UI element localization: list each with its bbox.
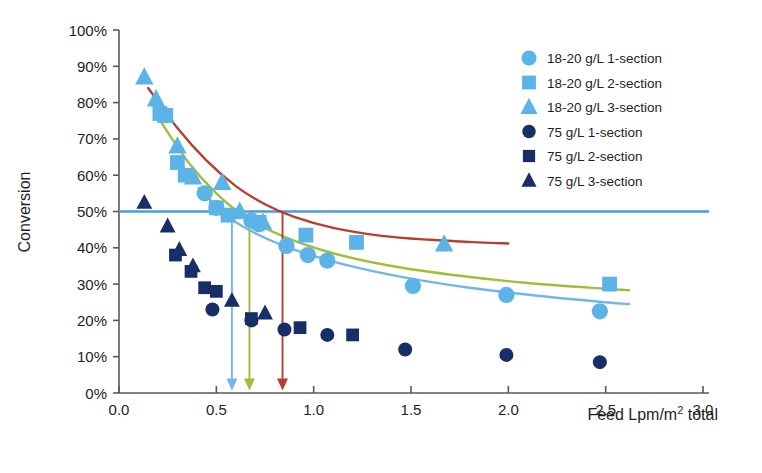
y-tick-label: 80% (77, 94, 107, 111)
data-point (602, 277, 617, 292)
legend-label: 75 g/L 1-section (547, 125, 643, 140)
data-point (346, 329, 359, 342)
data-point (135, 67, 153, 84)
legend-marker-square (522, 76, 536, 90)
x-tick-label: 2.0 (498, 401, 519, 418)
legend-item: 75 g/L 2-section (523, 149, 643, 164)
legend-marker-circle (521, 50, 536, 65)
data-point (210, 285, 223, 298)
x-tick-label: 1.0 (303, 401, 324, 418)
data-point (349, 235, 364, 250)
data-point (170, 155, 185, 170)
y-tick-label: 10% (77, 348, 107, 365)
x-tick-label: 1.5 (401, 401, 422, 418)
legend-label: 75 g/L 3-section (547, 174, 643, 189)
conversion-vs-feed-chart: 0.00.51.01.52.02.53.0 0%10%20%30%40%50%6… (0, 0, 762, 473)
y-axis-title: Conversion (16, 172, 33, 253)
y-tick-label: 0% (85, 385, 107, 402)
data-point (185, 257, 201, 272)
data-point (257, 305, 273, 320)
data-point (224, 292, 240, 307)
data-point (593, 355, 607, 369)
y-tick-label: 90% (77, 58, 107, 75)
chart-legend: 18-20 g/L 1-section18-20 g/L 2-section18… (520, 50, 662, 188)
legend-item: 75 g/L 3-section (521, 172, 642, 188)
data-point (136, 194, 152, 209)
data-point (160, 217, 176, 232)
y-tick-label: 20% (77, 312, 107, 329)
legend-label: 18-20 g/L 2-section (547, 76, 662, 91)
y-tick-label: 50% (77, 203, 107, 220)
legend-marker-circle (522, 125, 535, 138)
legend-item: 18-20 g/L 1-section (521, 50, 662, 66)
y-tick-label: 30% (77, 276, 107, 293)
x-axis-title: Feed Lpm/m2 total (587, 404, 718, 423)
data-point (498, 287, 514, 303)
data-point (278, 238, 294, 254)
green-arrow (244, 212, 255, 391)
series-18-20-g-l-1-section (197, 185, 608, 319)
data-point (298, 228, 313, 243)
x-axis-ticks (119, 386, 703, 393)
y-tick-labels: 0%10%20%30%40%50%60%70%80%90%100% (69, 22, 107, 402)
red-trend-3-section (148, 88, 508, 243)
chart-container: 0.00.51.01.52.02.53.0 0%10%20%30%40%50%6… (0, 0, 762, 473)
green-trend-2-section (158, 117, 629, 290)
data-point (277, 322, 291, 336)
x-tick-label: 0.0 (109, 401, 130, 418)
legend-item: 18-20 g/L 3-section (520, 98, 662, 115)
data-point (435, 234, 453, 251)
data-point (171, 241, 187, 256)
data-point (398, 342, 412, 356)
data-point (205, 303, 219, 317)
y-tick-label: 60% (77, 167, 107, 184)
data-point (320, 328, 334, 342)
data-point (245, 312, 258, 325)
data-point (592, 303, 608, 319)
y-tick-label: 40% (77, 239, 107, 256)
y-tick-label: 70% (77, 130, 107, 147)
data-point (294, 321, 307, 334)
legend-marker-triangle (520, 98, 537, 114)
legend-item: 75 g/L 1-section (522, 125, 642, 140)
legend-marker-triangle (521, 172, 536, 186)
legend-item: 18-20 g/L 2-section (522, 76, 662, 91)
data-point (319, 252, 335, 268)
data-points (135, 67, 617, 369)
data-point (300, 247, 316, 263)
data-point (198, 281, 211, 294)
data-point (405, 278, 421, 294)
data-point (499, 348, 513, 362)
x-tick-label: 0.5 (206, 401, 227, 418)
legend-marker-square (523, 150, 535, 162)
y-axis-ticks (113, 30, 119, 393)
trend-lines (148, 88, 629, 304)
legend-label: 75 g/L 2-section (547, 149, 643, 164)
legend-label: 18-20 g/L 3-section (547, 100, 662, 115)
legend-label: 18-20 g/L 1-section (547, 51, 662, 66)
data-point (197, 185, 213, 201)
y-tick-label: 100% (69, 22, 107, 39)
